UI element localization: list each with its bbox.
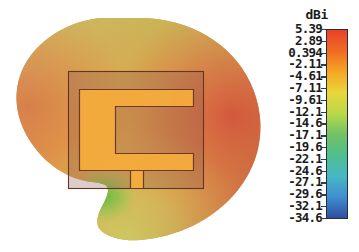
colorbar-tick-mark (321, 218, 326, 219)
colorbar-tick-mark (321, 147, 326, 148)
colorbar-tick-mark (321, 194, 326, 195)
colorbar-legend: dBi 5.39 2.89 0.394 -2.11 -4.61 -7.11 -9… (266, 0, 359, 252)
microstrip-feed-line (131, 171, 144, 189)
radiation-pattern-panel (0, 0, 270, 252)
colorbar-tick-mark (321, 112, 326, 113)
colorbar-tick-mark (321, 159, 326, 160)
colorbar (326, 29, 348, 219)
colorbar-tick-mark (321, 76, 326, 77)
colorbar-tick-mark (321, 135, 326, 136)
colorbar-tick-mark (321, 64, 326, 65)
colorbar-title: dBi (266, 8, 328, 22)
colorbar-tick-labels: 5.39 2.89 0.394 -2.11 -4.61 -7.11 -9.61 … (266, 23, 322, 224)
pattern-canvas (0, 0, 270, 252)
colorbar-gradient-strip (326, 29, 348, 219)
colorbar-tick-mark (321, 29, 326, 30)
colorbar-tick-label: -34.6 (266, 212, 322, 224)
colorbar-tick-mark (321, 206, 326, 207)
colorbar-tick-mark (321, 182, 326, 183)
colorbar-tick-mark (321, 123, 326, 124)
colorbar-tick-mark (321, 41, 326, 42)
antenna-geometry (69, 72, 204, 189)
colorbar-tick-mark (321, 53, 326, 54)
colorbar-tick-mark (321, 88, 326, 89)
colorbar-tick-mark (321, 100, 326, 101)
colorbar-tick-mark (321, 171, 326, 172)
antenna-gain-pattern-figure: dBi 5.39 2.89 0.394 -2.11 -4.61 -7.11 -9… (0, 0, 359, 252)
